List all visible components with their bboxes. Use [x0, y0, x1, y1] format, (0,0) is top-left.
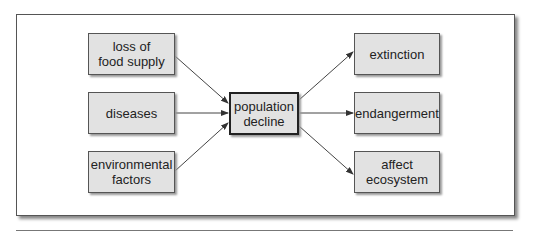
node-affect-ecosystem: affect ecosystem — [354, 151, 440, 193]
bottom-rule — [16, 230, 513, 231]
node-population-decline: population decline — [229, 92, 299, 135]
node-loss-of-food-supply: loss of food supply — [88, 33, 175, 75]
arrow-food-to-decline — [175, 56, 228, 103]
node-extinction: extinction — [354, 33, 440, 75]
arrow-env-to-decline — [175, 123, 228, 171]
node-endangerment: endangerment — [354, 92, 440, 134]
arrow-decline-to-ecosystem — [299, 126, 353, 174]
node-diseases: diseases — [88, 92, 175, 134]
arrow-decline-to-extinction — [299, 52, 353, 100]
node-environmental-factors: environmental factors — [88, 151, 175, 193]
